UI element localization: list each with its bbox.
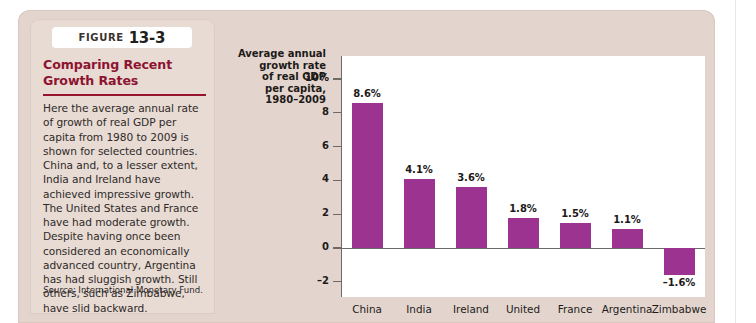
heading-divider: [43, 94, 206, 96]
y-axis-tick-mark: [333, 281, 341, 282]
figure-heading: Comparing Recent Growth Rates: [43, 57, 208, 88]
y-axis-tick-mark: [333, 78, 341, 79]
figure-number-pill: FIGURE 13-3: [52, 27, 192, 48]
bar-value-label: 1.1%: [597, 214, 657, 225]
source-label: Source:: [43, 285, 76, 295]
x-axis-category-label: Zimbabwe: [643, 303, 715, 315]
y-axis-tick-mark: [333, 180, 341, 181]
figure-number: 13-3: [129, 29, 166, 47]
figure-number-pill-content: FIGURE 13-3: [52, 27, 192, 48]
y-axis-tick-label: 2: [285, 207, 329, 218]
bar: [508, 218, 539, 248]
bar-value-label: 1.5%: [545, 208, 605, 219]
bar: [456, 187, 487, 248]
y-axis-tick-mark: [333, 146, 341, 147]
bar: [560, 223, 591, 248]
y-axis-tick-mark: [333, 214, 341, 215]
y-axis-tick-mark: [333, 247, 341, 248]
source-text: International Monetary Fund.: [78, 285, 203, 295]
figure-caption-text: Here the average annual rate of growth o…: [43, 101, 209, 315]
page-margin-rule: [735, 0, 736, 323]
bar-value-label: 1.8%: [493, 203, 553, 214]
y-axis-tick-label: 6: [285, 140, 329, 151]
y-axis-title-line: growth rate: [222, 60, 326, 72]
figure-source: Source: International Monetary Fund.: [43, 285, 213, 295]
bar: [664, 248, 695, 275]
y-axis-tick-label: 10%: [285, 72, 329, 83]
bar-value-label: 4.1%: [389, 164, 449, 175]
bar-value-label: –1.6%: [649, 277, 709, 288]
y-axis-tick-label: 4: [285, 173, 329, 184]
bar: [612, 229, 643, 248]
bar-value-label: 3.6%: [441, 172, 501, 183]
y-axis-title-line: 1980–2009: [222, 94, 326, 106]
y-axis-tick-label: 0: [285, 241, 329, 252]
figure-label: FIGURE: [79, 32, 124, 43]
y-axis-tick-label: –2: [285, 275, 329, 286]
bar-value-label: 8.6%: [337, 88, 397, 99]
figure-page: FIGURE 13-3 Comparing Recent Growth Rate…: [0, 0, 756, 323]
y-axis-title-line: per capita,: [222, 83, 326, 95]
bar: [352, 103, 383, 248]
bar: [404, 179, 435, 248]
y-axis-tick-mark: [333, 112, 341, 113]
y-axis-tick-label: 8: [285, 106, 329, 117]
y-axis-title-line: Average annual: [222, 48, 326, 60]
